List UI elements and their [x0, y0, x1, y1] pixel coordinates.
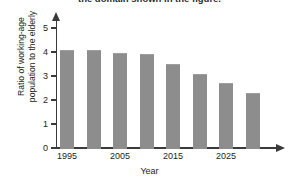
- bar-chart: 0 1 2 3 4 5 1995 2005 2015 2025 Year Rat…: [0, 0, 299, 182]
- bar-2020: [193, 74, 207, 149]
- y-axis-title-line-2: population to the elderly: [26, 0, 37, 133]
- y-tick-mark: [51, 75, 57, 76]
- x-tick-label-2005: 2005: [97, 151, 143, 161]
- y-tick-mark: [51, 147, 57, 148]
- bar-2000: [87, 50, 101, 148]
- bar-2010: [140, 54, 154, 149]
- y-axis-arrow-icon: [52, 12, 60, 21]
- bar-2030: [246, 93, 260, 149]
- x-tick-label-2025: 2025: [203, 151, 249, 161]
- x-tick-label-1995: 1995: [44, 151, 90, 161]
- bar-1995: [60, 50, 74, 149]
- x-axis-title: Year: [0, 166, 299, 176]
- y-axis-title: Ratio of working-age population to the e…: [16, 0, 37, 133]
- x-tick-label-2015: 2015: [150, 151, 196, 161]
- y-axis-line: [56, 20, 57, 148]
- bar-2015: [166, 64, 180, 149]
- y-axis-title-line-1: Ratio of working-age: [16, 0, 27, 133]
- y-tick-mark: [51, 51, 57, 52]
- y-tick-mark: [51, 123, 57, 124]
- y-tick-mark: [51, 99, 57, 100]
- bar-2005: [113, 53, 127, 149]
- x-axis-arrow-icon: [276, 144, 285, 152]
- y-tick-mark: [51, 27, 57, 28]
- y-tick-label-0: 0: [8, 144, 48, 153]
- bar-2025: [219, 83, 233, 149]
